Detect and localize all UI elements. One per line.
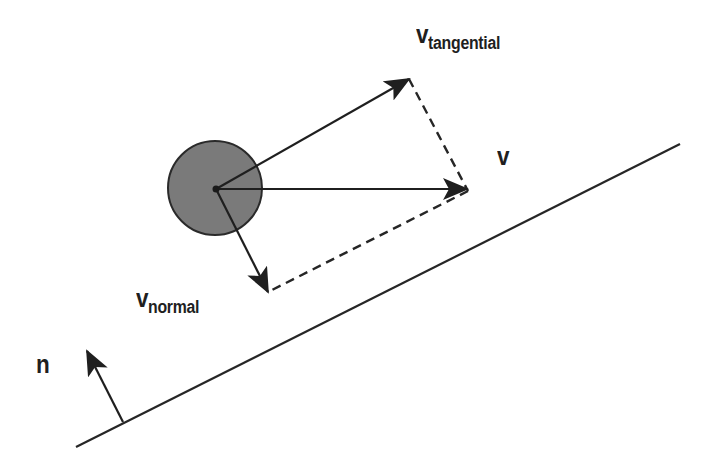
n-label: n: [36, 352, 51, 377]
surface-normal-arrow: [87, 351, 123, 422]
normal-projection-dashed-line: [272, 191, 468, 290]
v-tangential-label-main: v: [416, 22, 429, 47]
v-normal-label-subscript: normal: [148, 298, 199, 316]
v-tangential-label: vtangential: [416, 22, 510, 52]
velocity-decomposition-diagram: [0, 0, 713, 471]
v-label-main: v: [497, 144, 510, 169]
ball-center-dot: [213, 186, 220, 193]
v-normal-label: vnormal: [136, 286, 206, 316]
v-normal-label-main: v: [136, 286, 149, 311]
tangential-projection-dashed-line: [409, 79, 468, 191]
n-label-main: n: [36, 352, 50, 377]
v-tangential-arrow: [216, 79, 409, 189]
v-tangential-label-subscript: tangential: [428, 34, 500, 52]
v-label: v: [497, 144, 511, 169]
